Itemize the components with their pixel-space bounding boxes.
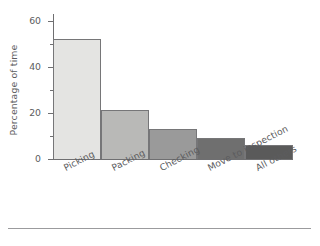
y-tick-label: 0 (35, 154, 41, 163)
y-tick-label: 20 (29, 108, 41, 117)
y-tick-label: 60 (29, 16, 41, 25)
bar-chart-figure: Percentage of time 0204060 PickingPackin… (0, 0, 320, 246)
footer-rule (8, 228, 311, 229)
y-axis-title: Percentage of time (8, 34, 24, 146)
y-tick-major: 0 (48, 159, 53, 160)
y-tick-label: 40 (29, 62, 41, 71)
plot-area: 0204060 PickingPackingCheckingMove to in… (53, 14, 293, 159)
bar-picking[interactable] (53, 39, 101, 158)
y-tick-major: 60 (48, 21, 53, 22)
